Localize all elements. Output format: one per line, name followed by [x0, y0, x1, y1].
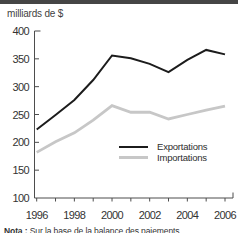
legend-label-exportations: Exportations	[157, 141, 207, 152]
x-tick-label: 2000	[97, 209, 127, 221]
x-tick-label: 2006	[210, 209, 238, 221]
footnote: Nota : Sur la base de la balance des pai…	[4, 226, 238, 233]
importations-line-swatch	[119, 156, 148, 159]
x-tick-label: 1998	[59, 209, 89, 221]
x-tick-label: 2004	[172, 209, 202, 221]
legend-row-importations: Importations	[119, 152, 207, 163]
chart-legend: Exportations Importations	[119, 141, 207, 163]
legend-label-importations: Importations	[157, 152, 207, 163]
footnote-label: Nota :	[4, 226, 27, 233]
x-axis-labels: 199619982000200220042006	[0, 0, 238, 233]
x-tick-label: 1996	[22, 209, 52, 221]
chart-screenshot: milliards de $ 400350300250200150100 199…	[0, 0, 238, 233]
legend-row-exportations: Exportations	[119, 141, 207, 152]
exportations-line-swatch	[119, 146, 148, 148]
footnote-text: Sur la base de la balance des paiements.	[27, 226, 181, 233]
x-tick-label: 2002	[135, 209, 165, 221]
